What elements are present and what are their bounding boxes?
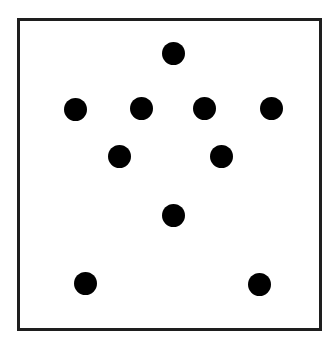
dot: [210, 145, 233, 168]
dot: [248, 273, 271, 296]
dot: [108, 145, 131, 168]
dot: [74, 272, 97, 295]
dot: [260, 97, 283, 120]
dot: [130, 97, 153, 120]
dot: [64, 98, 87, 121]
dot: [162, 204, 185, 227]
diagram-frame: [17, 18, 322, 331]
dot: [162, 42, 185, 65]
dot: [193, 97, 216, 120]
